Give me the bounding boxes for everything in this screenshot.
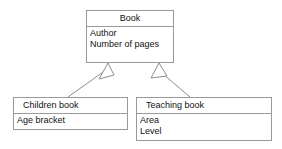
- uml-class-diagram-canvas: Book Author Number of pages Children boo…: [0, 0, 282, 149]
- generalization-line-teaching-book: [163, 74, 190, 97]
- generalization-arrowhead-children-book: [99, 63, 114, 79]
- attribute-item: Number of pages: [90, 39, 173, 50]
- generalization-children-book-to-book: [68, 63, 114, 97]
- generalization-teaching-book-to-book: [151, 63, 190, 97]
- attribute-item: Age bracket: [17, 115, 127, 126]
- class-name-book: Book: [87, 11, 173, 27]
- attribute-item: Author: [90, 28, 173, 39]
- attribute-item: Area: [140, 115, 271, 126]
- class-box-children-book[interactable]: Children book Age bracket: [13, 97, 128, 130]
- generalization-line-children-book: [68, 70, 106, 97]
- attribute-list-teaching-book: Area Level: [137, 114, 271, 137]
- class-box-teaching-book[interactable]: Teaching book Area Level: [136, 97, 272, 141]
- class-box-book[interactable]: Book Author Number of pages: [86, 10, 174, 63]
- attribute-list-book: Author Number of pages: [87, 27, 173, 50]
- generalization-arrowhead-teaching-book: [151, 63, 167, 78]
- attribute-list-children-book: Age bracket: [14, 114, 127, 126]
- class-name-children-book: Children book: [14, 98, 127, 114]
- class-name-teaching-book: Teaching book: [137, 98, 271, 114]
- attribute-item: Level: [140, 126, 271, 137]
